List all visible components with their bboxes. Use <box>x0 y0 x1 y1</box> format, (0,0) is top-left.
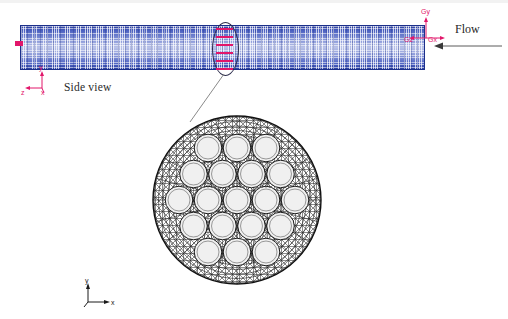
side-view-label: Side view <box>64 81 111 93</box>
inlet-marker <box>15 41 23 46</box>
flow-arrow-icon <box>432 40 504 52</box>
side-axis-label-z: z <box>21 89 25 96</box>
cross-axis-label-x: x <box>111 299 115 306</box>
scan-edge <box>0 0 508 3</box>
mesh-figure: Gy Gx Gz y x z Side view Flow <box>0 0 508 319</box>
side-axis-label-x: x <box>41 89 45 96</box>
cross-axis-label-y: y <box>85 277 89 284</box>
side-axis-label-y: y <box>39 64 43 71</box>
global-axis-label-gy: Gy <box>421 8 430 15</box>
flow-label: Flow <box>455 22 480 37</box>
cross-section-mesh <box>152 110 322 292</box>
global-axis-label-gz: Gz <box>404 36 413 43</box>
